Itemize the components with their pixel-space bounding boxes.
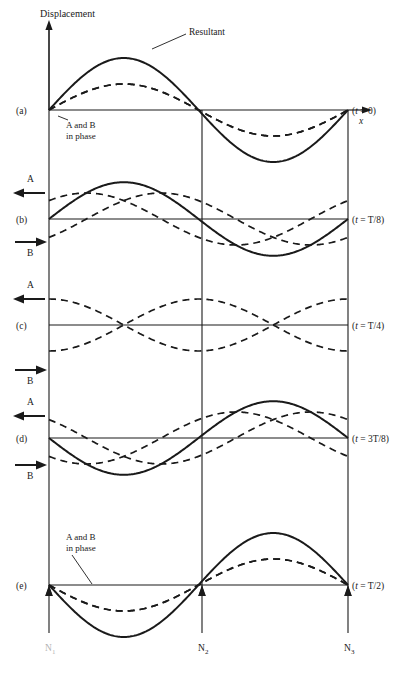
wave-b-label-d: B [27,471,33,481]
wave-row-d: (d)(t = 3T/8)AB [13,397,389,481]
time-label-e: (t = T/2) [352,581,384,592]
wave-a-label-d: A [27,397,34,407]
node-label-2: N2 [198,643,209,656]
wave-a-arrow-d: A [13,397,45,421]
wave-a-arrow-c: A [13,280,45,304]
wave-b-label-b: B [27,248,33,258]
wave-b-arrow-d: B [15,460,47,481]
y-axis-label: Displacement [40,8,95,19]
y-axis [45,20,52,110]
resultant-callout [152,34,186,49]
time-label-c: (t = T/4) [352,321,384,332]
in-phase-note-a: A and Bin phase [58,116,96,141]
wave-plot-layer: N1N2N3(a)(t = 0)A and Bin phase(b)(t = T… [13,58,389,656]
time-label-b: (t = T/8) [352,215,384,226]
wave-a-label-b: A [27,174,34,184]
wave-a-label-c: A [27,280,34,290]
wave-row-a: (a)(t = 0)A and Bin phase [16,58,376,162]
node-label-3: N3 [344,643,355,656]
wave-row-e: (e)(t = T/2)A and Bin phase [16,532,384,637]
wave-row-c: (c)(t = T/4)AB [13,280,384,386]
node-label-1: N1 [45,643,56,656]
in-phase-note-line1-e: A and B [66,532,96,542]
node-line-3 [344,110,351,633]
wave-b-label-c: B [27,376,33,386]
node-line-2 [198,110,205,633]
node-arrowhead-2 [198,585,206,596]
in-phase-note-line2-a: in phase [66,131,96,141]
standing-wave-figure: N1N2N3(a)(t = 0)A and Bin phase(b)(t = T… [0,0,408,680]
wave-a-arrow-b: A [13,174,45,198]
x-axis-label: x [358,116,364,126]
in-phase-note-line1-a: A and B [66,120,96,130]
wave-row-b: (b)(t = T/8)AB [13,174,384,258]
resultant-label: Resultant [189,27,225,37]
wave-b-arrow-b: B [15,237,47,258]
row-label-c: (c) [16,321,27,332]
wave-b-arrow-c: B [15,365,47,386]
row-label-d: (d) [16,434,27,445]
node-line-1 [45,110,52,633]
in-phase-note-line2-e: in phase [66,543,96,553]
row-label-e: (e) [16,581,27,592]
row-label-a: (a) [16,106,27,117]
node-arrowhead-3 [344,585,352,596]
time-label-d: (t = 3T/8) [352,434,389,445]
in-phase-note-e: A and Bin phase [66,532,96,584]
row-label-b: (b) [16,215,27,226]
